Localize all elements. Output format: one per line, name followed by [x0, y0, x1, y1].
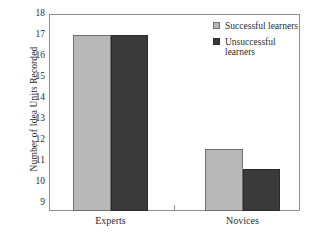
bar-novices-unsuccessful [243, 169, 281, 211]
x-axis-label-novices: Novices [205, 215, 280, 226]
bar-experts-unsuccessful [111, 35, 149, 211]
y-axis-tick-label: 9 [16, 198, 45, 208]
y-axis-tick-label: 10 [16, 177, 45, 187]
legend-label-successful: Successful learners [225, 21, 298, 32]
y-axis-tick-label: 16 [16, 51, 45, 61]
legend-item-successful: Successful learners [213, 21, 303, 32]
legend-swatch-successful-icon [213, 22, 220, 29]
x-axis-center-tick [174, 205, 175, 211]
y-axis-title: Number of Idea Units Recorded [29, 19, 39, 199]
legend-swatch-unsuccessful-icon [213, 38, 220, 45]
y-axis-tick-label: 18 [16, 9, 45, 19]
x-axis-label-experts: Experts [73, 215, 148, 226]
legend-label-unsuccessful: Unsuccessful learners [225, 37, 303, 58]
chart-legend: Successful learners Unsuccessful learner… [213, 21, 303, 63]
y-axis-tick-label: 11 [16, 156, 45, 166]
y-axis-tick-label: 15 [16, 72, 45, 82]
y-axis-tick-label: 14 [16, 93, 45, 103]
bar-chart-figure: Number of Idea Units Recorded 9101112131… [0, 0, 319, 241]
bar-novices-successful [205, 149, 243, 211]
bar-experts-successful [73, 35, 111, 211]
y-axis-tick-label: 13 [16, 114, 45, 124]
legend-item-unsuccessful: Unsuccessful learners [213, 37, 303, 58]
y-axis-tick-label: 17 [16, 30, 45, 40]
y-axis-tick-label: 12 [16, 135, 45, 145]
